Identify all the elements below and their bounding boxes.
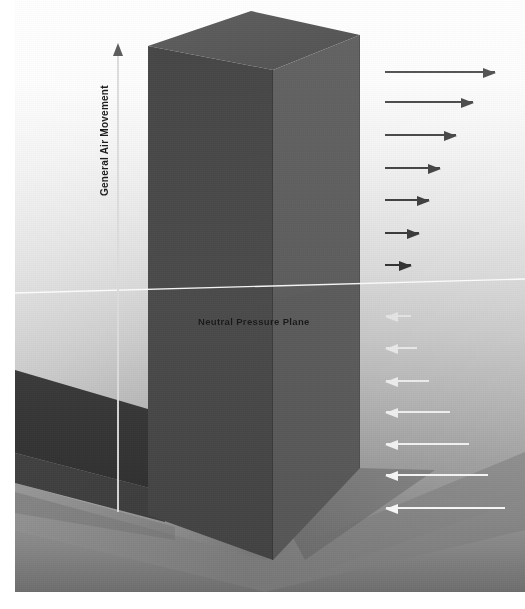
illustration-scene: Neutral Pressure Plane General Air Movem… [15,0,525,592]
infiltration-arrow-head [417,196,430,206]
exfiltration-arrow-head [385,471,398,481]
infiltration-arrow-head [483,68,496,78]
infiltration-arrow-head [461,98,474,108]
infiltration-arrow-head [444,131,457,141]
neutral-pressure-plane-label: Neutral Pressure Plane [198,316,310,327]
infiltration-arrow-head [399,261,412,271]
exfiltration-arrow-head [385,377,398,387]
exfiltration-arrow-head [385,504,398,514]
diagram-canvas: Neutral Pressure Plane General Air Movem… [0,0,525,609]
infiltration-arrow-shaft [385,71,495,73]
infiltration-arrow-head [407,229,420,239]
general-air-movement-label: General Air Movement [99,85,110,196]
exfiltration-arrow-shaft [386,443,469,445]
building-side-face [15,0,525,592]
exfiltration-arrow-shaft [386,474,488,476]
infiltration-arrow-shaft [385,101,473,103]
exfiltration-arrow-head [385,312,398,322]
exfiltration-arrow-shaft [386,507,505,509]
infiltration-arrow-head [428,164,441,174]
exfiltration-arrow-head [385,440,398,450]
exfiltration-arrow-head [385,344,398,354]
exfiltration-arrow-head [385,408,398,418]
